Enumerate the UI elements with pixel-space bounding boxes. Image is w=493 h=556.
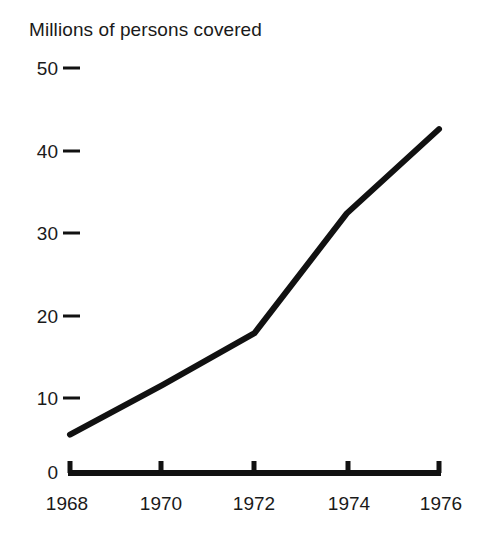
data-series-line <box>70 129 439 435</box>
plot-area <box>0 0 493 556</box>
y-axis-ticks <box>63 68 80 398</box>
chart-figure: Millions of persons covered 50 40 30 20 … <box>0 0 493 556</box>
